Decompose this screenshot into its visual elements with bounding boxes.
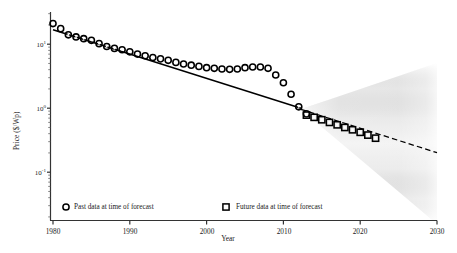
historical-trend-line — [53, 30, 301, 108]
x-tick-label-2030: 2030 — [417, 227, 457, 236]
y-tick-label-10e-1: 10-1 — [18, 168, 46, 177]
x-tick-label-1980: 1980 — [33, 227, 73, 236]
x-tick-label-1990: 1990 — [110, 227, 150, 236]
x-axis-label: Year — [205, 234, 251, 243]
x-tick-label-2020: 2020 — [340, 227, 380, 236]
legend-marker-past — [63, 204, 69, 210]
figure-solar-price-forecast: Price ($/Wp) 101 100 10-1 1980 1990 2000… — [0, 0, 457, 253]
legend-label-past: Past data at time of forecast — [74, 203, 154, 211]
y-tick-label-10e1: 101 — [18, 40, 46, 49]
past-data-series — [50, 21, 310, 117]
y-axis-label: Price ($/Wp) — [13, 111, 21, 150]
legend-label-future: Future data at time of forecast — [236, 203, 322, 211]
legend-marker-future — [223, 204, 229, 210]
chart-canvas — [0, 0, 457, 253]
y-tick-label-10e0: 100 — [18, 104, 46, 113]
x-tick-label-2010: 2010 — [264, 227, 304, 236]
